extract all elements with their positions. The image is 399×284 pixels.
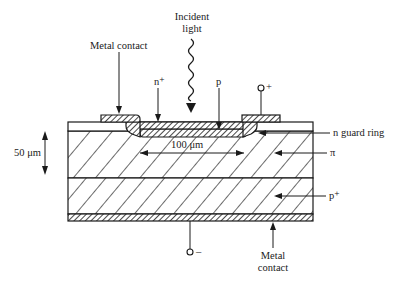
p-label: p	[216, 76, 221, 88]
metal-bottom-line1: Metal	[253, 250, 293, 262]
negative-terminal	[187, 221, 193, 255]
incident-light-arrow	[186, 39, 196, 113]
metal-contact-bottom-label: Metal contact	[253, 250, 293, 274]
n-plus-layer	[138, 122, 248, 129]
n-plus-label: n⁺	[154, 76, 165, 88]
metal-contact-top-label: Metal contact	[90, 40, 147, 52]
metal-bottom-line2: contact	[253, 262, 293, 274]
incident-light-label: Incident light	[170, 11, 214, 35]
left-top-metal-contact	[101, 115, 140, 122]
width-label: 100 μm	[171, 139, 203, 151]
incident-label-line1: Incident	[170, 11, 214, 23]
positive-terminal	[258, 85, 264, 115]
bottom-metal-contact	[68, 214, 313, 221]
n-guard-ring-label: n guard ring	[333, 127, 384, 139]
p-layer	[140, 129, 246, 137]
pi-label: π	[330, 147, 335, 159]
thickness-label: 50 μm	[14, 147, 41, 159]
incident-label-line2: light	[170, 23, 214, 35]
minus-terminal-label: –	[196, 246, 201, 258]
plus-terminal-label: +	[266, 81, 272, 93]
p-plus-label: p⁺	[329, 190, 340, 202]
p-pointer	[216, 88, 222, 130]
thickness-dimension	[42, 131, 48, 175]
bottom-metal-pointer	[270, 222, 276, 248]
right-top-metal-contact	[242, 115, 280, 122]
n-plus-pointer	[155, 88, 161, 122]
metal-contact-pointer	[116, 52, 122, 114]
